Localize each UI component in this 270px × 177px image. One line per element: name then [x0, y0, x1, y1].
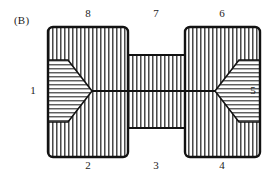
callout-8: 8 [78, 8, 98, 19]
callout-2: 2 [78, 160, 98, 171]
callout-7: 7 [146, 8, 166, 19]
callout-4: 4 [212, 160, 232, 171]
callout-6: 6 [212, 8, 232, 19]
callout-5: 5 [244, 85, 262, 96]
callout-1: 1 [24, 85, 42, 96]
figure-panel-b: (B) [0, 0, 270, 177]
callout-3: 3 [146, 160, 166, 171]
